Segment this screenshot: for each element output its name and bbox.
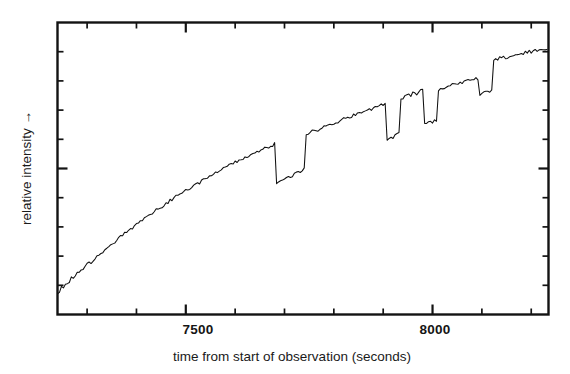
x-tick-label-7500: 7500	[182, 322, 213, 337]
x-axis-ticks-top	[87, 23, 531, 33]
x-axis-ticks-bottom	[87, 305, 531, 315]
y-axis-ticks-right	[539, 52, 549, 286]
plot-svg: 7500 8000 time from start of observation…	[0, 0, 570, 374]
axes-frame	[58, 23, 549, 315]
figure-container: 7500 8000 time from start of observation…	[0, 0, 570, 374]
x-axis-title: time from start of observation (seconds)	[173, 349, 411, 364]
y-axis-ticks-left	[58, 52, 68, 286]
intensity-line-series	[58, 49, 548, 293]
y-axis-title: relative intensity →	[19, 111, 34, 225]
x-tick-label-8000: 8000	[419, 322, 450, 337]
